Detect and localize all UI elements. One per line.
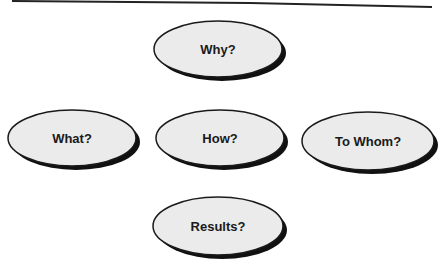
node-to-whom: To Whom? <box>302 112 438 174</box>
top-rule-divider <box>12 1 432 7</box>
what-label: What? <box>52 131 92 146</box>
why-label: Why? <box>200 42 235 57</box>
node-results: Results? <box>153 197 287 259</box>
node-how: How? <box>156 110 288 170</box>
to-whom-label: To Whom? <box>335 134 401 149</box>
node-what: What? <box>8 110 140 170</box>
node-why: Why? <box>154 21 286 81</box>
results-label: Results? <box>191 219 246 234</box>
how-label: How? <box>202 131 237 146</box>
diagram-canvas: Why? What? How? To Whom? Results? <box>0 0 442 279</box>
